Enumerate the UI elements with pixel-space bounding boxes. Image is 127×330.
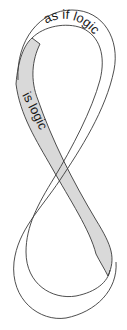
top-label: as if logic — [41, 7, 104, 38]
shaded-band — [16, 38, 112, 276]
mobius-ribbon-figure: as if logic is logic — [0, 0, 127, 330]
